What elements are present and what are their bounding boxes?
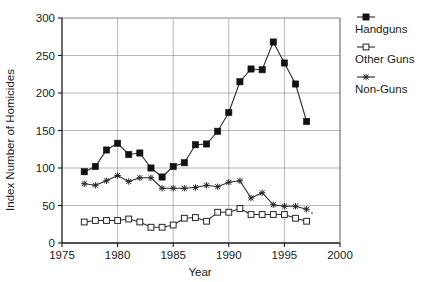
x-tick-label: 1995: [272, 249, 298, 261]
y-axis-tick-labels: 050100150200250300: [36, 12, 55, 249]
data-point-marker-star: [170, 185, 176, 191]
data-point-marker-open-square: [363, 44, 369, 50]
legend-item-other-guns[interactable]: Other Guns: [355, 44, 415, 65]
y-axis-title: Index Number of Homicides: [4, 69, 16, 211]
data-point-marker-open-square: [248, 212, 254, 218]
data-point-marker-star: [270, 202, 276, 208]
data-point-marker-open-square: [170, 222, 176, 228]
data-point-marker-filled-square: [226, 109, 232, 115]
data-point-marker-star: [281, 203, 287, 209]
data-point-marker-open-square: [204, 218, 210, 224]
series-other-guns: [81, 206, 309, 231]
data-point-marker-filled-square: [192, 142, 198, 148]
data-point-marker-filled-square: [292, 81, 298, 87]
data-point-marker-open-square: [215, 209, 221, 215]
data-point-marker-star: [159, 185, 165, 191]
data-point-marker-open-square: [104, 218, 110, 224]
data-point-marker-star: [214, 184, 220, 190]
data-point-marker-star: [126, 178, 132, 184]
data-point-marker-star: [248, 195, 254, 201]
y-tick-label: 250: [36, 50, 55, 62]
y-tick-label: 100: [36, 162, 55, 174]
data-series-layer: [81, 39, 310, 230]
data-point-marker-filled-square: [203, 141, 209, 147]
data-point-marker-star: [148, 175, 154, 181]
data-point-marker-open-square: [115, 218, 121, 224]
data-point-marker-filled-square: [215, 128, 221, 134]
data-point-marker-star: [92, 182, 98, 188]
scan-artifact: [311, 212, 313, 214]
chart-legend: HandgunsOther GunsNon-Guns: [355, 14, 415, 95]
data-point-marker-filled-square: [363, 14, 369, 20]
data-point-marker-open-square: [282, 212, 288, 218]
series-non-guns: [81, 172, 310, 212]
y-tick-label: 50: [42, 200, 55, 212]
data-point-marker-filled-square: [92, 163, 98, 169]
data-point-marker-star: [192, 184, 198, 190]
x-tick-label: 2000: [327, 249, 353, 261]
data-point-marker-filled-square: [159, 174, 165, 180]
data-point-marker-filled-square: [148, 165, 154, 171]
data-point-marker-open-square: [304, 218, 310, 224]
data-point-marker-filled-square: [126, 151, 132, 157]
x-tick-label: 1975: [49, 249, 75, 261]
y-tick-label: 0: [49, 237, 55, 249]
legend-item-non-guns[interactable]: Non-Guns: [355, 74, 408, 95]
data-point-marker-open-square: [226, 209, 232, 215]
data-point-marker-filled-square: [248, 66, 254, 72]
homicides-line-chart: 050100150200250300 197519801985199019952…: [0, 0, 432, 282]
data-point-marker-filled-square: [170, 163, 176, 169]
x-tick-label: 1985: [160, 249, 186, 261]
x-axis-title: Year: [188, 266, 211, 278]
legend-label: Other Guns: [355, 53, 415, 65]
data-point-marker-star: [292, 203, 298, 209]
data-point-marker-star: [114, 172, 120, 178]
y-tick-label: 300: [36, 12, 55, 24]
data-point-marker-open-square: [181, 215, 187, 221]
data-point-marker-filled-square: [115, 140, 121, 146]
legend-label: Handguns: [355, 23, 408, 35]
chart-figure: 050100150200250300 197519801985199019952…: [0, 0, 432, 282]
data-point-marker-open-square: [193, 215, 199, 221]
data-point-marker-open-square: [270, 212, 276, 218]
data-point-marker-filled-square: [270, 39, 276, 45]
x-axis-tick-labels: 197519801985199019952000: [49, 249, 353, 261]
data-point-marker-open-square: [259, 212, 265, 218]
data-point-marker-star: [259, 190, 265, 196]
data-point-marker-filled-square: [259, 67, 265, 73]
data-point-marker-filled-square: [103, 147, 109, 153]
data-point-marker-open-square: [137, 219, 143, 225]
data-point-marker-star: [226, 179, 232, 185]
data-point-marker-open-square: [126, 216, 132, 222]
data-point-marker-filled-square: [137, 150, 143, 156]
data-point-marker-open-square: [293, 215, 299, 221]
data-point-marker-star: [137, 175, 143, 181]
series-handguns: [81, 39, 310, 180]
data-point-marker-star: [203, 182, 209, 188]
data-point-marker-star: [103, 178, 109, 184]
legend-item-handguns[interactable]: Handguns: [355, 14, 408, 35]
data-point-marker-open-square: [81, 219, 87, 225]
data-point-marker-filled-square: [81, 169, 87, 175]
data-point-marker-open-square: [148, 224, 154, 230]
legend-label: Non-Guns: [355, 83, 408, 95]
data-point-marker-star: [363, 74, 369, 80]
grid-layer: [62, 18, 340, 243]
data-point-marker-star: [81, 181, 87, 187]
data-point-marker-star: [181, 185, 187, 191]
data-point-marker-open-square: [237, 206, 243, 212]
x-tick-label: 1980: [105, 249, 131, 261]
y-tick-label: 150: [36, 125, 55, 137]
data-point-marker-filled-square: [304, 118, 310, 124]
data-point-marker-open-square: [92, 218, 98, 224]
data-point-marker-filled-square: [181, 160, 187, 166]
axis-ticks: [58, 18, 340, 247]
data-point-marker-open-square: [159, 224, 165, 230]
data-point-marker-star: [303, 206, 309, 212]
data-point-marker-filled-square: [237, 79, 243, 85]
y-tick-label: 200: [36, 87, 55, 99]
data-point-marker-filled-square: [281, 60, 287, 66]
data-point-marker-star: [237, 178, 243, 184]
x-tick-label: 1990: [216, 249, 242, 261]
